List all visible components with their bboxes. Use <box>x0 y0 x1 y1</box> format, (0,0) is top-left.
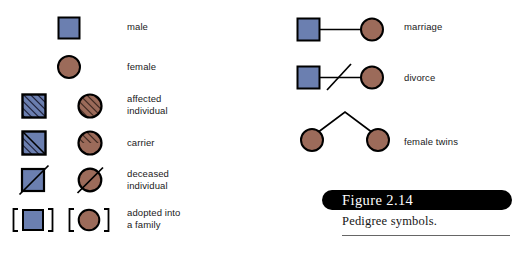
legend-label-adopted: adopted into a family <box>127 207 181 230</box>
symbol-divorce-pair <box>296 60 386 94</box>
figure-caption-text: Pedigree symbols. <box>342 214 437 229</box>
legend-row-adopted: adopted into a family <box>0 202 250 242</box>
legend-row-divorce: divorce <box>0 58 513 100</box>
legend-label-marriage: marriage <box>404 21 442 33</box>
legend-label-female-twins: female twins <box>404 136 458 148</box>
pedigree-symbols-figure: male female <box>0 0 513 258</box>
legend-label-deceased: deceased individual <box>127 168 169 191</box>
symbol-circle-adopted-bracketed <box>68 206 110 234</box>
legend-row-deceased: deceased individual <box>0 162 250 204</box>
symbol-square-adopted-bracketed <box>12 206 54 234</box>
figure-number-label: Figure 2.14 <box>342 192 413 209</box>
symbol-marriage-pair <box>296 15 386 45</box>
symbol-circle-deceased-slashed <box>75 165 107 197</box>
legend-row-female-twins: female twins <box>0 108 513 158</box>
symbol-female-twins-fork <box>296 108 396 156</box>
legend-row-marriage: marriage <box>0 10 513 50</box>
figure-caption-block: Figure 2.14 Pedigree symbols. <box>320 190 512 246</box>
legend-label-divorce: divorce <box>404 72 435 84</box>
symbol-square-deceased-slashed <box>19 165 51 197</box>
caption-divider <box>342 235 510 236</box>
